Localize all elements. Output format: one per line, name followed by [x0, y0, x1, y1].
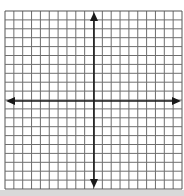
- bottom-bar: [0, 190, 184, 196]
- coordinate-plane: [0, 0, 184, 196]
- arrow-left-icon: [6, 97, 15, 105]
- arrow-right-icon: [172, 97, 181, 105]
- arrow-down-icon: [90, 179, 98, 188]
- arrow-up-icon: [90, 12, 98, 21]
